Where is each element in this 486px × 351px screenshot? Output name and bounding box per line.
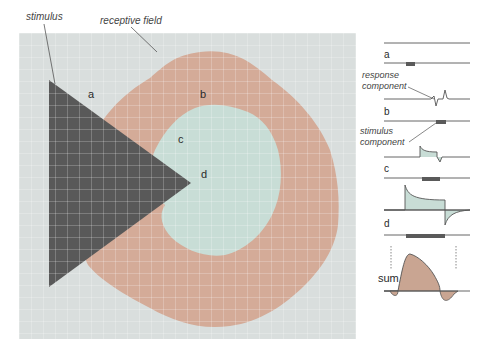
region-label-b: b (200, 88, 206, 100)
region-label-a: a (88, 88, 95, 100)
region-label-c: c (178, 133, 184, 145)
trace-label-sum: sum (378, 272, 399, 284)
stimulus-component-callout: stimulus component (360, 123, 436, 147)
stimulus-bar-d (406, 234, 445, 238)
trace-label-a: a (384, 49, 390, 60)
svg-text:stimulus: stimulus (26, 11, 63, 22)
trace-label-c: c (384, 163, 389, 174)
stimulus-bar-a (406, 62, 415, 66)
svg-text:component: component (360, 137, 405, 147)
svg-text:stimulus: stimulus (360, 126, 394, 136)
stimulus-bar-c (422, 177, 440, 181)
svg-text:receptive field: receptive field (100, 15, 162, 26)
svg-text:response: response (362, 70, 399, 80)
sum-trace: sum (378, 246, 470, 300)
response-component-callout: response component (362, 70, 434, 99)
trace-label-d: d (384, 218, 390, 229)
stimulus-bar-b (436, 120, 446, 124)
trace-label-b: b (384, 106, 390, 117)
receptive-field-diagram: stimulus receptive field a b c d a b c (0, 0, 486, 351)
svg-text:component: component (362, 81, 407, 91)
region-label-d: d (201, 168, 207, 180)
